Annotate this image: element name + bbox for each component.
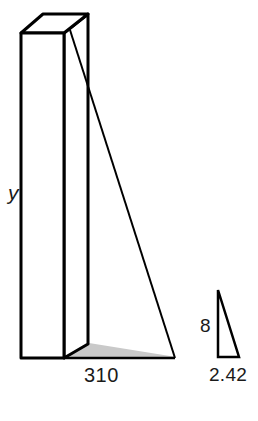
prism-height-label: y xyxy=(8,182,19,203)
prism-right-face xyxy=(64,14,88,358)
small-triangle-shape xyxy=(218,290,239,357)
geometry-figure: y 310 8 2.42 xyxy=(0,0,258,421)
prism-front-face xyxy=(21,33,64,358)
small-triangle-height-label: 8 xyxy=(200,316,211,335)
prism-base-label: 310 xyxy=(84,365,119,385)
figure-canvas xyxy=(0,0,258,421)
small-triangle-base-label: 2.42 xyxy=(209,365,247,384)
